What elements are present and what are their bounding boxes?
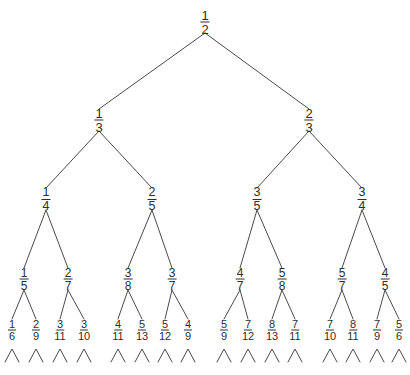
tree-node-fraction: 34: [358, 186, 367, 212]
tree-node-fraction: 59: [220, 319, 228, 342]
fraction-numerator: 3: [253, 186, 262, 200]
tree-node-fraction: 38: [124, 267, 133, 292]
fraction-numerator: 3: [358, 186, 367, 200]
fraction-denominator: 5: [20, 280, 29, 292]
fraction-numerator: 2: [148, 186, 157, 200]
tree-node-fraction: 57: [338, 267, 347, 292]
fraction-denominator: 11: [111, 331, 124, 342]
fraction-denominator: 11: [346, 331, 359, 342]
tree-node-fraction: 710: [323, 319, 337, 342]
tree-node-fraction: 311: [53, 319, 66, 342]
tree-node-fraction: 49: [184, 319, 192, 342]
fraction-denominator: 5: [148, 200, 157, 213]
fraction-denominator: 7: [338, 280, 347, 292]
tree-node-fraction: 811: [346, 319, 359, 342]
tree-node-fraction: 29: [32, 319, 40, 342]
fraction-denominator: 4: [358, 200, 367, 213]
fraction-denominator: 12: [158, 331, 172, 342]
tree-node-fraction: 25: [148, 186, 157, 212]
fraction-denominator: 8: [124, 280, 133, 292]
fraction-denominator: 9: [220, 331, 228, 342]
tree-node-fraction: 45: [381, 267, 390, 292]
tree-node-fraction: 310: [77, 319, 91, 342]
tree-node-fraction: 712: [241, 319, 255, 342]
fraction-denominator: 4: [42, 200, 51, 213]
tree-node-fraction: 58: [278, 267, 287, 292]
tree-node-fraction: 56: [395, 319, 403, 342]
fraction-numerator: 2: [304, 107, 313, 121]
tree-node-fraction: 513: [135, 319, 149, 342]
fraction-denominator: 9: [373, 331, 381, 342]
fraction-numerator: 1: [200, 9, 209, 23]
tree-node-fraction: 12: [200, 9, 209, 36]
fraction-denominator: 3: [304, 121, 313, 134]
fraction-denominator: 8: [278, 280, 287, 292]
fraction-denominator: 9: [184, 331, 192, 342]
tree-node-fraction: 35: [253, 186, 262, 212]
tree-node-fraction: 23: [304, 107, 313, 134]
tree-node-fraction: 411: [111, 319, 124, 342]
fraction-numerator: 1: [42, 186, 51, 200]
fraction-tree-figure: 1213231425353415273837475857451629311310…: [0, 0, 410, 375]
fraction-denominator: 7: [236, 280, 245, 292]
fraction-denominator: 12: [241, 331, 255, 342]
fraction-denominator: 11: [53, 331, 66, 342]
tree-node-fraction: 512: [158, 319, 172, 342]
fraction-denominator: 11: [288, 331, 301, 342]
fraction-denominator: 3: [94, 121, 103, 134]
fraction-denominator: 5: [253, 200, 262, 213]
tree-node-fraction: 16: [8, 319, 16, 342]
tree-node-fraction: 47: [236, 267, 245, 292]
fraction-denominator: 7: [168, 280, 177, 292]
tree-node-fraction: 37: [168, 267, 177, 292]
fraction-denominator: 2: [200, 23, 209, 36]
fraction-denominator: 13: [265, 331, 279, 342]
fraction-denominator: 10: [77, 331, 91, 342]
tree-node-fraction: 813: [265, 319, 279, 342]
tree-node-fraction: 79: [373, 319, 381, 342]
fraction-denominator: 9: [32, 331, 40, 342]
fraction-denominator: 10: [323, 331, 337, 342]
fraction-numerator: 1: [94, 107, 103, 121]
fraction-denominator: 6: [395, 331, 403, 342]
tree-node-fraction: 27: [64, 267, 73, 292]
tree-node-fraction: 14: [42, 186, 51, 212]
fraction-denominator: 7: [64, 280, 73, 292]
fraction-denominator: 5: [381, 280, 390, 292]
fraction-denominator: 13: [135, 331, 149, 342]
tree-node-fraction: 15: [20, 267, 29, 292]
tree-node-layer: 1213231425353415273837475857451629311310…: [0, 0, 410, 375]
fraction-denominator: 6: [8, 331, 16, 342]
tree-node-fraction: 711: [288, 319, 301, 342]
tree-node-fraction: 13: [94, 107, 103, 134]
